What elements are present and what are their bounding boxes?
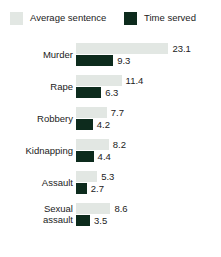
bar-row-time-served: 6.3: [76, 87, 143, 98]
bar-value-average-sentence-sexual-assault: 8.6: [114, 204, 127, 214]
bar-value-time-served-sexual-assault: 3.5: [94, 216, 107, 226]
legend-swatch-icon-time-served: [124, 12, 137, 25]
bar-chart: Average sentence Time served Murder 23.1…: [0, 0, 221, 257]
bar-value-time-served-robbery: 4.2: [97, 120, 110, 130]
category-label-kidnapping: Kidnapping: [0, 145, 73, 156]
category-label-line-2: assault: [0, 214, 73, 225]
chart-plot-area: Murder 23.1 9.3 Rape 11.4: [0, 42, 221, 234]
bar-value-time-served-kidnapping: 4.4: [98, 152, 111, 162]
bar-pair-sexual-assault: 8.6 3.5: [76, 203, 128, 227]
bar-row-time-served: 3.5: [76, 215, 128, 226]
bar-group-kidnapping: Kidnapping 8.2 4.4: [0, 138, 221, 170]
bar-row-time-served: 4.2: [76, 119, 124, 130]
bar-value-average-sentence-robbery: 7.7: [111, 108, 124, 118]
bar-average-sentence-kidnapping: [76, 139, 109, 150]
legend-item-average-sentence: Average sentence: [10, 11, 106, 25]
bar-time-served-assault: [76, 183, 87, 194]
bar-row-average-sentence: 23.1: [76, 43, 191, 54]
bar-average-sentence-robbery: [76, 107, 107, 118]
category-label-assault: Assault: [0, 177, 73, 188]
bar-time-served-murder: [76, 55, 113, 66]
category-label-sexual-assault: Sexual assault: [0, 203, 73, 225]
legend-label-time-served: Time served: [144, 13, 196, 23]
bar-row-average-sentence: 7.7: [76, 107, 124, 118]
bar-row-average-sentence: 5.3: [76, 171, 114, 182]
category-label-murder: Murder: [0, 49, 73, 60]
bar-group-robbery: Robbery 7.7 4.2: [0, 106, 221, 138]
bar-average-sentence-rape: [76, 75, 122, 86]
bar-value-average-sentence-murder: 23.1: [172, 44, 191, 54]
category-label-line-1: Sexual: [0, 203, 73, 214]
bar-value-time-served-assault: 2.7: [91, 184, 104, 194]
bar-row-time-served: 4.4: [76, 151, 126, 162]
bar-group-sexual-assault: Sexual assault 8.6 3.5: [0, 202, 221, 234]
bar-group-murder: Murder 23.1 9.3: [0, 42, 221, 74]
bar-time-served-sexual-assault: [76, 215, 90, 226]
category-label-robbery: Robbery: [0, 113, 73, 124]
bar-value-time-served-murder: 9.3: [117, 56, 130, 66]
chart-legend: Average sentence Time served: [0, 11, 221, 27]
bar-value-average-sentence-rape: 11.4: [126, 76, 144, 86]
bar-pair-kidnapping: 8.2 4.4: [76, 139, 126, 163]
bar-group-rape: Rape 11.4 6.3: [0, 74, 221, 106]
bar-row-average-sentence: 8.6: [76, 203, 128, 214]
bar-time-served-robbery: [76, 119, 93, 130]
bar-group-assault: Assault 5.3 2.7: [0, 170, 221, 202]
bar-pair-murder: 23.1 9.3: [76, 43, 191, 67]
category-label-rape: Rape: [0, 81, 73, 92]
bar-average-sentence-murder: [76, 43, 168, 54]
bar-value-average-sentence-kidnapping: 8.2: [113, 140, 126, 150]
bar-value-time-served-rape: 6.3: [105, 88, 118, 98]
bar-average-sentence-sexual-assault: [76, 203, 110, 214]
bar-pair-robbery: 7.7 4.2: [76, 107, 124, 131]
bar-row-time-served: 2.7: [76, 183, 114, 194]
bar-average-sentence-assault: [76, 171, 97, 182]
bar-pair-assault: 5.3 2.7: [76, 171, 114, 195]
bar-row-average-sentence: 8.2: [76, 139, 126, 150]
bar-row-time-served: 9.3: [76, 55, 191, 66]
bar-pair-rape: 11.4 6.3: [76, 75, 143, 99]
legend-item-time-served: Time served: [124, 11, 196, 25]
legend-swatch-icon-average-sentence: [10, 12, 23, 25]
bar-time-served-rape: [76, 87, 101, 98]
bar-value-average-sentence-assault: 5.3: [101, 172, 114, 182]
legend-label-average-sentence: Average sentence: [30, 13, 106, 23]
bar-time-served-kidnapping: [76, 151, 94, 162]
bar-row-average-sentence: 11.4: [76, 75, 143, 86]
